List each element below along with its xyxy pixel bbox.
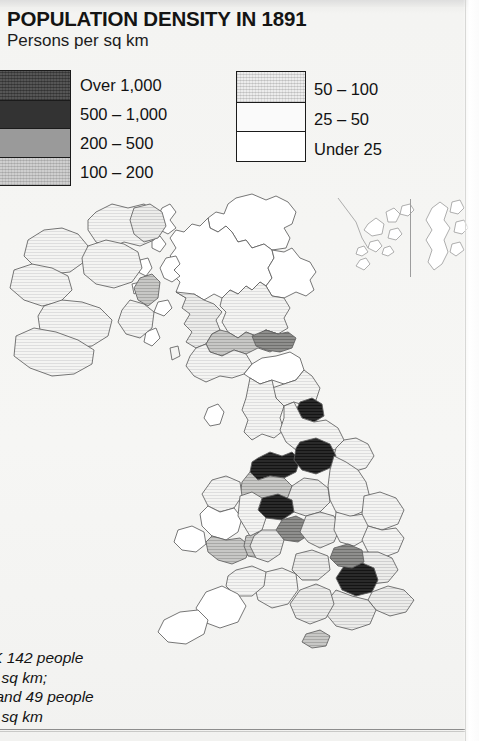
region-berkshire-oxfordshire (292, 550, 330, 580)
page-title: POPULATION DENSITY IN 1891 (7, 7, 306, 31)
region-lancashire (250, 452, 300, 480)
footnote-text-block: K 142 people r sq km; land 49 people r s… (0, 648, 182, 726)
inset-divider-line (410, 199, 411, 277)
region-isle-of-wight (302, 630, 330, 648)
region-surrey-sussex (326, 590, 376, 630)
region-shropshire-hereford (238, 492, 266, 536)
legend-left-swatch-stack (0, 70, 71, 186)
legend-label-under-25: Under 25 (314, 140, 382, 159)
page-subtitle: Persons per sq km (7, 31, 149, 51)
legend-label-100-200: 100 – 200 (80, 163, 153, 182)
legend-swatch-500-1000 (0, 100, 70, 129)
region-scottish-borders (244, 352, 304, 384)
footnote-line-1: K 142 people (0, 648, 182, 668)
legend-label-25-50: 25 – 50 (314, 110, 369, 129)
inset-leader-line (338, 198, 368, 248)
region-hertfordshire-middlesex (330, 544, 364, 568)
legend-swatch-over-1000 (0, 71, 70, 100)
map-page: POPULATION DENSITY IN 1891 Persons per s… (0, 0, 479, 741)
legend-swatch-under-25 (237, 131, 305, 161)
region-norfolk (362, 492, 404, 530)
region-leinster-midlands (82, 240, 142, 288)
region-glamorgan (206, 536, 250, 564)
legend-label-200-500: 200 – 500 (80, 134, 153, 153)
footnote-line-4: r sq km (0, 707, 182, 727)
region-london (336, 562, 378, 596)
bottom-rule (0, 729, 466, 730)
bottom-rule-shadow (0, 731, 466, 732)
region-cornwall (158, 610, 208, 644)
region-county-dublin (134, 274, 160, 306)
region-lothian-edinburgh (252, 330, 296, 352)
legend-label-50-100: 50 – 100 (314, 80, 378, 99)
paper-edge-line (465, 0, 466, 741)
legend-swatch-50-100 (237, 72, 305, 102)
legend-swatch-100-200 (0, 157, 70, 186)
paper-top-edge (0, 0, 479, 7)
region-isle-of-man (204, 404, 224, 426)
legend-swatch-25-50 (237, 102, 305, 132)
region-scotland-aberdeen-moray (266, 248, 316, 298)
region-mull (154, 300, 172, 316)
legend-label-500-1000: 500 – 1,000 (80, 105, 167, 124)
shetland-inset-shapes (426, 200, 468, 270)
footnote-line-3: land 49 people (0, 687, 182, 707)
region-arran (170, 346, 180, 360)
orkney-inset-shapes (356, 204, 414, 270)
footnote-line-2: r sq km; (0, 668, 182, 688)
legend-label-over-1000: Over 1,000 (80, 76, 162, 95)
legend-swatch-200-500 (0, 128, 70, 157)
region-pembrokeshire (174, 526, 206, 552)
legend-right-swatch-stack (236, 71, 306, 162)
